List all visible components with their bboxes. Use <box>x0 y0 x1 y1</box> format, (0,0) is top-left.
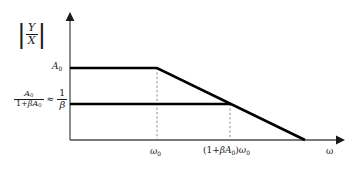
wc-omega-subscript: 0 <box>246 149 250 156</box>
x-axis-arrowhead <box>336 136 345 145</box>
one-over-beta-fraction: 1β <box>57 88 67 111</box>
gain-vs-frequency-plot <box>0 0 358 169</box>
closed-loop-gain-denominator: 1+βA0 <box>14 100 44 109</box>
y-over-x-denominator: X <box>26 35 38 47</box>
y-over-x-numerator: Y <box>26 22 38 35</box>
closed-loop-gain-fraction: A0 1+βA0 <box>14 90 44 109</box>
y-over-x-fraction: YX <box>26 22 38 47</box>
y-axis-arrowhead <box>66 12 75 21</box>
wc-prefix: (1+ <box>203 145 220 155</box>
y-tick-label-a0: A0 <box>52 62 62 72</box>
abs-bar-right: | <box>38 21 47 47</box>
a0-subscript: 0 <box>59 65 63 72</box>
figure-container: |YX| A0 A0 1+βA0 ≈1β ω0 (1+βA0)ω0 ω <box>0 0 358 169</box>
numerator-a-subscript: 0 <box>30 92 33 98</box>
x-tick-label-omega-closed-loop: (1+βA0)ω0 <box>203 146 250 156</box>
one-over-beta-denominator: β <box>57 100 67 111</box>
x-axis-label: ω <box>326 147 333 156</box>
omega0-subscript: 0 <box>157 150 161 157</box>
y-axis-label: |YX| <box>17 21 46 47</box>
denominator-a-subscript: 0 <box>38 102 41 108</box>
abs-bar-left: | <box>17 21 26 47</box>
approx-equals-sign: ≈ <box>44 95 58 104</box>
denominator-prefix: 1+ <box>16 99 28 108</box>
y-tick-label-closed-loop-gain: A0 1+βA0 ≈1β <box>14 88 67 111</box>
x-tick-label-omega0: ω0 <box>150 147 161 157</box>
